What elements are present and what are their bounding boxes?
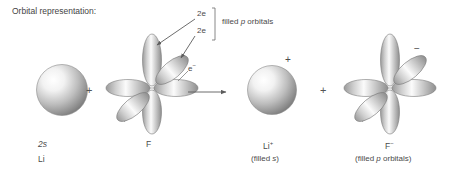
- filled-p-orbitals-label: filled p orbitals: [222, 18, 273, 26]
- lithium-2s-sphere: [37, 65, 88, 116]
- electron-label: e−: [188, 62, 196, 73]
- electron-count-bottom-label: 2e: [197, 27, 206, 35]
- fluoride-ion-p-orbital-cluster: [344, 34, 436, 134]
- lithium-orbital-label: 2s: [38, 140, 47, 149]
- lithium-ion-charge-superscript: +: [285, 55, 291, 65]
- filled-p-bracket: [212, 8, 215, 40]
- electron-charge: −: [192, 62, 196, 68]
- orbitals-word: orbitals: [245, 17, 273, 26]
- plus-operator-left: +: [86, 85, 92, 96]
- orbital-artwork: [0, 0, 451, 175]
- fluoride-ion-charge: −: [390, 140, 394, 146]
- fluoride-ion-charge-superscript: −: [414, 44, 420, 54]
- filled-p-open: (filled: [355, 154, 376, 163]
- lithium-ion-sublabel: (filled s): [251, 155, 279, 163]
- fluorine-p-orbital-cluster: [106, 34, 198, 134]
- filled-s-open: (filled: [251, 154, 272, 163]
- figure-canvas: Orbital representation:: [0, 0, 451, 175]
- lithium-ion-element: Li: [263, 141, 270, 151]
- filled-s-close: ): [276, 154, 279, 163]
- lithium-element-label: Li: [38, 155, 45, 164]
- fluoride-ion-label: F−: [385, 140, 394, 150]
- lithium-ion-charge: +: [270, 140, 274, 146]
- plus-operator-right: +: [320, 85, 326, 96]
- filled-p-orbitals-text: filled: [222, 17, 241, 26]
- fluoride-ion-sublabel: (filled p orbitals): [355, 155, 411, 163]
- electron-count-top-label: 2e: [197, 10, 206, 18]
- electron-callout-arrows: [157, 19, 195, 58]
- lithium-ion-label: Li+: [263, 140, 273, 150]
- filled-p-close: orbitals): [381, 154, 412, 163]
- fluorine-element-label: F: [146, 140, 151, 149]
- lithium-ion-sphere: [248, 66, 297, 115]
